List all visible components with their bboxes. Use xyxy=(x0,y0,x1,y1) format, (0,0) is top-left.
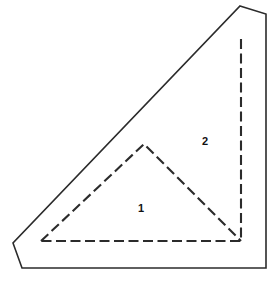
figure-svg: 1 2 xyxy=(0,0,278,281)
region-label-2: 2 xyxy=(202,135,208,147)
outer-sheet-outline xyxy=(13,6,266,268)
region-label-1: 1 xyxy=(138,202,144,214)
figure-canvas: 1 2 xyxy=(0,0,278,281)
